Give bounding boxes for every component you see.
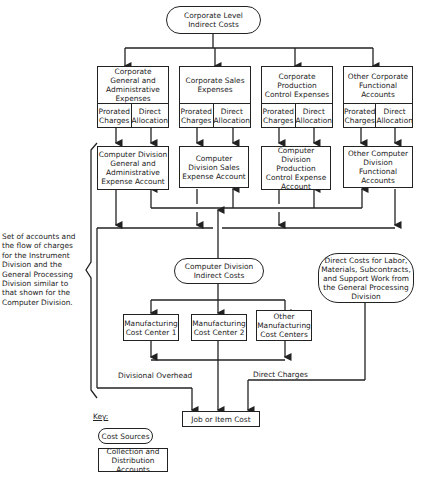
- other-corporate-title: Other Corporate Functional Accounts: [344, 67, 412, 104]
- side-note: Set of accounts and the flow of charges …: [2, 232, 76, 307]
- division-sales-account-node: Computer Division Sales Expense Account: [179, 146, 249, 188]
- corporate-sales-title: Corporate Sales Expenses: [180, 67, 250, 104]
- prorated-charges: Prorated Charges: [180, 104, 214, 128]
- direct-costs-node: Direct Costs for Labor, Materials, Subco…: [318, 253, 414, 303]
- corporate-indirect-costs-node: Corporate Level Indirect Costs: [166, 6, 261, 34]
- prorated-charges: Prorated Charges: [98, 104, 132, 128]
- prorated-charges: Prorated Charges: [262, 104, 296, 128]
- other-cost-centers-node: Other Manufacturing Cost Centers: [256, 310, 312, 341]
- direct-allocation: Direct Allocation: [296, 104, 332, 128]
- corporate-ga-expenses-node: Corporate General and Administrative Exp…: [97, 66, 169, 128]
- cost-center-2-node: Manufacturing Cost Center 2: [191, 314, 247, 341]
- other-corporate-accounts-node: Other Corporate Functional Accounts Pror…: [343, 66, 413, 128]
- job-item-cost-node: Job or Item Cost: [182, 411, 260, 427]
- division-production-account-node: Computer Division Production Control Exp…: [261, 146, 331, 190]
- division-ga-account-node: Computer Division General and Administra…: [97, 146, 169, 190]
- key-cost-sources: Cost Sources: [98, 428, 153, 444]
- corporate-sales-expenses-node: Corporate Sales Expenses Prorated Charge…: [179, 66, 251, 128]
- divisional-overhead-label: Divisional Overhead: [118, 371, 192, 380]
- key-collection-accounts: Collection and Distribution Accounts: [98, 448, 168, 472]
- corporate-production-control-node: Corporate Production Control Expenses Pr…: [261, 66, 333, 128]
- corporate-ga-title: Corporate General and Administrative Exp…: [98, 67, 168, 104]
- corporate-production-title: Corporate Production Control Expenses: [262, 67, 332, 104]
- key-title: Key:: [93, 412, 108, 421]
- direct-allocation: Direct Allocation: [132, 104, 168, 128]
- direct-charges-label: Direct Charges: [253, 370, 308, 379]
- other-division-accounts-node: Other Computer Division Functional Accou…: [343, 146, 413, 188]
- cost-center-1-node: Manufacturing Cost Center 1: [123, 314, 179, 341]
- direct-allocation: Direct Allocation: [376, 104, 412, 128]
- division-indirect-costs-node: Computer Division Indirect Costs: [174, 258, 264, 284]
- prorated-charges: Prorated Charges: [344, 104, 376, 128]
- direct-allocation: Direct Allocation: [214, 104, 250, 128]
